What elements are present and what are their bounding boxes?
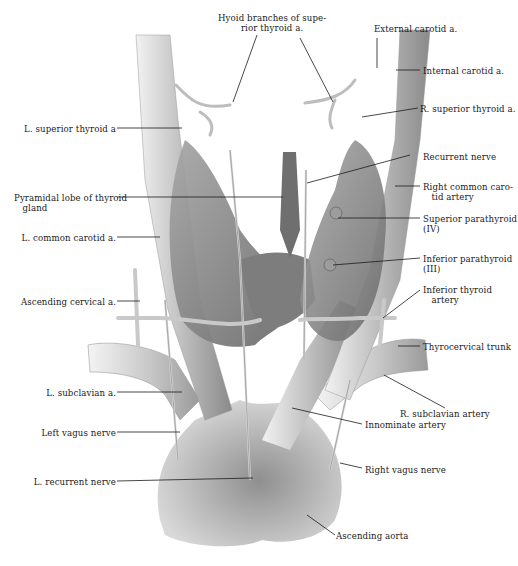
label-ascending-aorta: Ascending aorta — [336, 531, 409, 541]
label-ascending-cervical: Ascending cervical a. — [21, 297, 116, 307]
label-l-recurrent: L. recurrent nerve — [34, 477, 116, 487]
label-r-superior-thyroid: R. superior thyroid a. — [420, 104, 516, 114]
label-l-subclavian: L. subclavian a. — [46, 388, 116, 398]
label-recurrent-nerve: Recurrent nerve — [423, 152, 496, 162]
label-innominate: Innominate artery — [365, 420, 446, 430]
label-right-common-carotid: Right common caro- tid artery — [423, 182, 513, 202]
label-hyoid-branches: Hyoid branches of supe- rior thyroid a. — [218, 13, 326, 33]
label-l-superior-thyroid: L. superior thyroid a — [24, 124, 116, 134]
label-l-common-carotid: L. common carotid a. — [22, 233, 116, 243]
label-internal-carotid: Internal carotid a. — [423, 66, 504, 76]
label-r-subclavian: R. subclavian artery — [400, 409, 490, 419]
label-inferior-parathyroid: Inferior parathyroid (III) — [423, 254, 512, 274]
label-pyramidal-lobe: Pyramidal lobe of thyroid gland — [14, 193, 127, 213]
anatomical-figure: Hyoid branches of supe- rior thyroid a. … — [0, 0, 518, 566]
label-thyrocervical-trunk: Thyrocervical trunk — [423, 342, 511, 352]
label-external-carotid: External carotid a. — [374, 24, 457, 34]
label-superior-parathyroid: Superior parathyroid (IV) — [423, 214, 517, 234]
label-right-vagus: Right vagus nerve — [365, 465, 446, 475]
label-inferior-thyroid: Inferior thyroid artery — [423, 285, 492, 305]
label-left-vagus: Left vagus nerve — [41, 428, 116, 438]
